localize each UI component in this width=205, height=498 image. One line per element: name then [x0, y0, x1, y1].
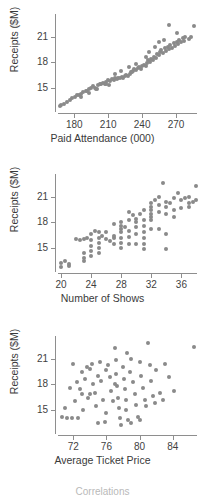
y-axis-tick: [51, 222, 56, 223]
y-axis-tick-label: 21: [18, 32, 48, 42]
data-point: [106, 363, 110, 367]
data-point: [98, 360, 102, 364]
x-axis-tick: [106, 436, 107, 440]
x-axis-tick: [91, 274, 92, 278]
x-axis-tick-label: 72: [55, 442, 91, 452]
data-point: [127, 65, 131, 69]
data-point: [89, 249, 93, 253]
data-point: [194, 184, 198, 188]
data-point: [167, 23, 171, 27]
data-point: [179, 206, 183, 210]
data-point: [119, 236, 123, 240]
y-axis-tick-label: 18: [18, 217, 48, 227]
data-point: [88, 367, 92, 371]
plot-area: [55, 176, 201, 270]
scatterplot-paid-attendance: Receipts ($M) Paid Attendance (000) 1518…: [0, 0, 205, 150]
data-point: [157, 227, 161, 231]
data-point: [94, 404, 98, 408]
data-point: [86, 396, 90, 400]
footer-heading: Correlations: [0, 486, 205, 498]
data-point: [172, 389, 176, 393]
x-axis-tick: [108, 114, 109, 118]
y-axis-tick: [51, 88, 56, 89]
data-point: [192, 24, 196, 28]
x-axis-tick-label: 76: [88, 442, 124, 452]
data-point: [97, 251, 101, 255]
data-point: [134, 220, 138, 224]
data-point: [143, 398, 147, 402]
data-point: [96, 421, 100, 425]
data-point: [189, 35, 193, 39]
data-point: [96, 374, 100, 378]
y-axis-tick-label: 21: [18, 192, 48, 202]
data-point: [134, 225, 138, 229]
y-axis-tick-label: 15: [18, 83, 48, 93]
data-point: [82, 259, 86, 263]
data-point: [119, 230, 123, 234]
data-point: [147, 50, 151, 54]
data-point: [128, 370, 132, 374]
data-point: [123, 387, 127, 391]
data-point: [142, 208, 146, 212]
data-point: [113, 346, 117, 350]
data-point: [138, 360, 142, 364]
data-point: [99, 379, 103, 383]
data-point: [80, 392, 84, 396]
data-point: [104, 368, 108, 372]
data-point: [146, 341, 150, 345]
data-point: [119, 423, 123, 427]
data-point: [138, 212, 142, 216]
x-axis-tick-label: 240: [124, 120, 160, 130]
data-point: [83, 377, 87, 381]
y-axis-tick: [51, 410, 56, 411]
data-point: [176, 191, 180, 195]
data-point: [134, 403, 138, 407]
data-point: [95, 87, 99, 91]
data-point: [153, 198, 157, 202]
data-point: [88, 392, 92, 396]
data-point: [108, 239, 112, 243]
data-point: [187, 205, 191, 209]
data-point: [164, 232, 168, 236]
x-axis-tick: [121, 274, 122, 278]
data-point: [59, 265, 63, 269]
data-point: [175, 31, 179, 35]
y-axis-tick: [51, 62, 56, 63]
data-point: [133, 392, 137, 396]
data-point: [130, 70, 134, 74]
data-point: [78, 387, 82, 391]
x-axis-tick: [142, 114, 143, 118]
data-point: [89, 238, 93, 242]
data-point: [141, 386, 145, 390]
data-point: [192, 345, 196, 349]
data-point: [68, 386, 72, 390]
data-point: [142, 247, 146, 251]
x-axis-title: Number of Shows: [0, 293, 205, 304]
data-point: [103, 420, 107, 424]
data-point: [111, 399, 115, 403]
data-point: [182, 39, 186, 43]
data-point: [87, 91, 91, 95]
data-point: [89, 244, 93, 248]
data-point: [148, 363, 152, 367]
plot-area: [55, 338, 201, 432]
data-point: [167, 375, 171, 379]
data-point: [138, 418, 142, 422]
data-point: [153, 401, 157, 405]
data-point: [194, 198, 198, 202]
data-point: [164, 247, 168, 251]
data-point: [157, 53, 161, 57]
data-point: [101, 398, 105, 402]
data-point: [154, 368, 158, 372]
data-point: [71, 362, 75, 366]
x-axis-tick: [140, 436, 141, 440]
data-point: [142, 236, 146, 240]
data-point: [97, 230, 101, 234]
data-point: [97, 246, 101, 250]
data-point: [142, 242, 146, 246]
data-point: [127, 235, 131, 239]
data-point: [127, 218, 131, 222]
data-point: [82, 251, 86, 255]
data-point: [129, 357, 133, 361]
y-axis-tick-label: 15: [18, 405, 48, 415]
